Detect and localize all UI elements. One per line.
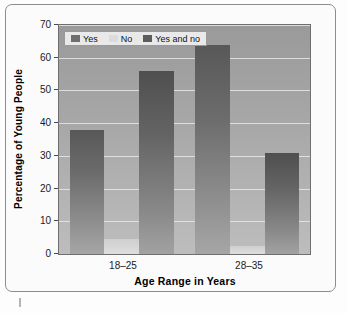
legend-label-yes-and-no: Yes and no — [155, 34, 200, 44]
legend-label-no: No — [121, 34, 133, 44]
legend-entry-yes-and-no: Yes and no — [143, 34, 200, 44]
legend-entry-no: No — [109, 34, 133, 44]
bar-28-35-no — [230, 246, 265, 254]
bar-28-35-yes-and-no — [265, 153, 300, 254]
bar-18-25-no — [104, 239, 139, 254]
y-axis-tick-label-20: 20 — [40, 182, 51, 193]
y-axis-tick-label-10: 10 — [40, 215, 51, 226]
bar-18-25-yes-and-no — [139, 71, 174, 254]
bar-28-35-yes — [195, 45, 230, 254]
gridline-50 — [59, 90, 310, 91]
x-axis-tick-label-1: 28–35 — [235, 260, 263, 271]
y-axis-tick-label-40: 40 — [40, 117, 51, 128]
y-axis-tick-label-70: 70 — [40, 19, 51, 30]
gridline-70 — [59, 25, 310, 26]
gridline-40 — [59, 123, 310, 124]
gridline-60 — [59, 58, 310, 59]
y-axis-tick-label-60: 60 — [40, 51, 51, 62]
legend-label-yes: Yes — [83, 34, 98, 44]
x-axis-tick-label-0: 18–25 — [109, 260, 137, 271]
stray-tick-artifact — [19, 298, 21, 307]
legend-swatch-no-icon — [109, 35, 118, 42]
plot-area — [58, 24, 311, 255]
figure-canvas: Percentage of Young People Age Range in … — [0, 0, 347, 313]
legend-swatch-yes-and-no-icon — [143, 35, 152, 42]
y-axis-tick-label-30: 30 — [40, 149, 51, 160]
chart-legend: Yes No Yes and no — [64, 31, 207, 46]
x-axis-title: Age Range in Years — [134, 275, 235, 287]
legend-swatch-yes-icon — [71, 35, 80, 42]
legend-entry-yes: Yes — [71, 34, 98, 44]
bar-18-25-yes — [70, 130, 105, 254]
y-axis-tick-label-50: 50 — [40, 84, 51, 95]
y-axis-title: Percentage of Young People — [13, 69, 24, 209]
y-axis-tick-label-0: 0 — [45, 248, 51, 259]
